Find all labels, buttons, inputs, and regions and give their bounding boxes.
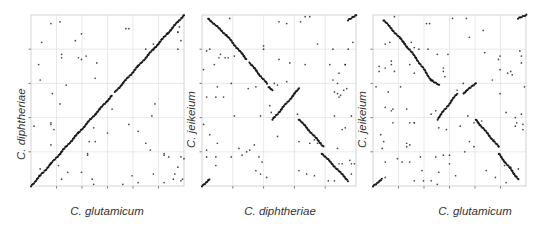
match-dot: [522, 129, 524, 131]
match-dot: [430, 113, 432, 115]
match-dot: [375, 86, 377, 88]
match-dot: [378, 71, 380, 73]
match-dot: [514, 117, 516, 119]
match-dot: [409, 64, 411, 66]
match-dot: [459, 125, 461, 127]
match-dot: [413, 180, 415, 182]
match-dot: [517, 178, 519, 180]
match-dot: [391, 64, 393, 66]
match-dot: [384, 106, 386, 108]
match-dot: [522, 124, 524, 126]
match-dot: [510, 71, 512, 73]
x-axis-label-3: C. glutamicum: [438, 205, 512, 217]
match-dot: [464, 151, 466, 153]
plot-area-3: [0, 0, 541, 229]
match-dot: [401, 161, 403, 163]
match-dot: [449, 163, 451, 165]
match-dot: [435, 156, 437, 158]
match-dot: [521, 55, 523, 57]
match-dot: [384, 177, 386, 179]
match-dot: [423, 180, 425, 182]
match-dot: [391, 60, 393, 62]
match-dot: [499, 55, 501, 57]
match-dot: [493, 139, 495, 141]
match-dot: [420, 156, 422, 158]
match-dot: [467, 115, 469, 117]
match-dot: [475, 82, 477, 84]
match-dot: [381, 148, 383, 150]
match-dot: [524, 86, 526, 88]
match-dot: [473, 122, 475, 124]
match-dot: [387, 91, 389, 93]
match-dot: [518, 168, 520, 170]
match-dot: [498, 146, 500, 148]
match-dot: [392, 108, 394, 110]
match-dot: [436, 53, 438, 55]
match-dot: [447, 53, 449, 55]
match-dot: [499, 69, 501, 71]
match-dot: [505, 112, 507, 114]
match-dot: [443, 67, 445, 69]
match-dot: [449, 154, 451, 156]
match-dot: [491, 79, 493, 81]
match-dot: [456, 89, 458, 91]
match-dot: [418, 48, 420, 50]
match-dot: [499, 93, 501, 95]
match-dot: [409, 161, 411, 163]
match-dot: [507, 72, 509, 74]
match-dot: [392, 122, 394, 124]
match-dot: [438, 171, 440, 173]
match-dot: [452, 18, 454, 20]
match-dot: [406, 142, 408, 144]
match-dot: [462, 83, 464, 85]
match-dot: [384, 67, 386, 69]
match-dot: [455, 175, 457, 177]
match-dot: [409, 122, 411, 124]
match-dot: [381, 178, 383, 180]
match-dot: [495, 177, 497, 179]
match-dot: [421, 170, 423, 172]
match-dot: [456, 93, 458, 95]
match-dot: [406, 146, 408, 148]
match-dot: [378, 65, 380, 67]
match-dot: [510, 166, 512, 168]
match-dot: [384, 161, 386, 163]
match-dot: [426, 23, 428, 25]
match-dot: [438, 127, 440, 129]
match-dot: [485, 170, 487, 172]
match-dot: [514, 125, 516, 127]
match-dot: [394, 71, 396, 73]
match-dot: [443, 154, 445, 156]
match-dot: [394, 16, 396, 18]
match-dot: [432, 79, 434, 81]
match-dot: [446, 129, 448, 131]
match-dot: [469, 36, 471, 38]
match-dot: [426, 72, 428, 74]
match-dot: [410, 42, 412, 44]
match-dot: [444, 76, 446, 78]
match-dot: [413, 122, 415, 124]
match-dot: [498, 59, 500, 61]
match-dot: [482, 30, 484, 32]
match-dot: [400, 86, 402, 88]
match-dot: [438, 84, 440, 86]
match-dot: [413, 47, 415, 49]
match-dot: [427, 48, 429, 50]
match-dot: [443, 71, 445, 73]
match-dot: [391, 110, 393, 112]
match-dot: [383, 141, 385, 143]
match-dot: [389, 42, 391, 44]
match-dot: [504, 165, 506, 167]
match-dot: [465, 18, 467, 20]
match-dot: [525, 14, 527, 16]
match-dot: [430, 180, 432, 182]
match-dot: [505, 182, 507, 184]
match-dot: [481, 120, 483, 122]
match-dot: [513, 173, 515, 175]
match-dot: [519, 50, 521, 52]
match-dot: [473, 146, 475, 148]
match-dot: [406, 108, 408, 110]
match-dot: [511, 74, 513, 76]
match-dot: [436, 183, 438, 185]
match-dot: [516, 122, 518, 124]
